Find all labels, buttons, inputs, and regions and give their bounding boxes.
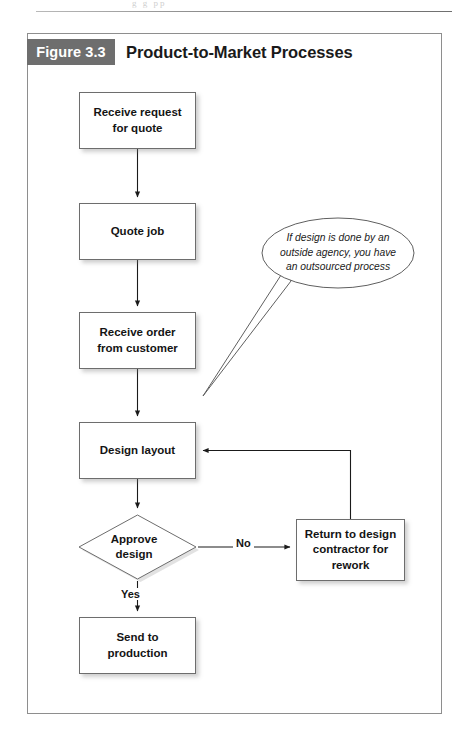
flow-node-label: Design layout [100, 443, 175, 458]
figure-number-badge: Figure 3.3 [27, 39, 115, 65]
flow-node-approve-design[interactable]: Approve design [70, 513, 198, 581]
flow-node-label: Approve design [70, 513, 198, 581]
edge-label-no: No [233, 537, 254, 549]
flow-node-receive-request[interactable]: Receive request for quote [79, 92, 196, 149]
flow-node-design-layout[interactable]: Design layout [79, 422, 196, 479]
flow-node-receive-order[interactable]: Receive order from customer [79, 312, 196, 369]
flow-node-quote-job[interactable]: Quote job [79, 203, 196, 260]
flow-node-label: Receive order from customer [97, 325, 178, 355]
page-top-divider [36, 11, 452, 12]
flow-node-label: Receive request for quote [93, 105, 181, 135]
flow-node-return-to-design-contractor[interactable]: Return to design contractor for rework [296, 519, 405, 581]
edge-label-yes: Yes [118, 588, 143, 600]
flow-node-label: Return to design contractor for rework [305, 527, 396, 573]
page-header-remnant: g g pp [132, 0, 252, 8]
flow-node-label: Send to production [107, 630, 167, 660]
callout-text: If design is done by an outside agency, … [262, 218, 414, 288]
callout-outsourced-note: If design is done by an outside agency, … [262, 218, 414, 288]
flow-node-label: Quote job [111, 224, 165, 239]
flow-node-send-to-production[interactable]: Send to production [79, 617, 196, 674]
figure-title: Product-to-Market Processes [126, 40, 353, 64]
